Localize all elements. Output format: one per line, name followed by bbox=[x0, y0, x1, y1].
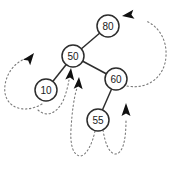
tree-node-50: 50 bbox=[62, 45, 84, 67]
arrow-from-60-to-80-path bbox=[127, 21, 166, 87]
tree-node-60: 60 bbox=[105, 68, 127, 90]
tree-node-55: 55 bbox=[87, 109, 109, 131]
tree-node-80: 80 bbox=[97, 15, 119, 37]
tree-node-10: 10 bbox=[35, 79, 57, 101]
arrowhead-below-50-left-icon bbox=[65, 68, 75, 81]
tree-diagram-canvas: 80 50 60 10 55 bbox=[0, 0, 169, 172]
bst-rotation-diagram: 80 50 60 10 55 bbox=[0, 0, 169, 172]
node-55-label: 55 bbox=[92, 115, 104, 126]
arrowhead-right-of-55-icon bbox=[122, 103, 131, 116]
node-10-label: 10 bbox=[40, 85, 52, 96]
node-80-label: 80 bbox=[102, 21, 114, 32]
arrowhead-at-80-icon bbox=[121, 10, 134, 21]
arrowhead-left-loop-icon bbox=[23, 50, 37, 65]
arrowhead-below-50-right-icon bbox=[74, 77, 84, 90]
node-60-label: 60 bbox=[110, 74, 122, 85]
node-50-label: 50 bbox=[67, 51, 79, 62]
